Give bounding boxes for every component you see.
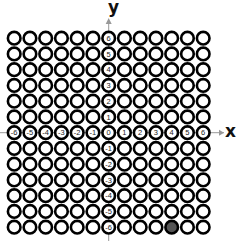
grid-point[interactable]: [8, 158, 21, 171]
grid-point[interactable]: [150, 221, 163, 234]
grid-point[interactable]: [8, 79, 21, 92]
grid-point[interactable]: [71, 205, 84, 218]
grid-point-filled[interactable]: [165, 221, 178, 234]
grid-point[interactable]: [8, 48, 21, 61]
grid-point[interactable]: [39, 63, 52, 76]
grid-point[interactable]: [71, 63, 84, 76]
grid-point[interactable]: [134, 111, 147, 124]
grid-point[interactable]: [39, 32, 52, 45]
grid-point[interactable]: [24, 32, 37, 45]
grid-point[interactable]: [24, 158, 37, 171]
grid-point[interactable]: [118, 63, 131, 76]
grid-point[interactable]: [118, 158, 131, 171]
grid-point[interactable]: [197, 158, 210, 171]
grid-point[interactable]: [55, 174, 68, 187]
grid-point[interactable]: [71, 221, 84, 234]
grid-point[interactable]: [165, 79, 178, 92]
grid-point[interactable]: [39, 95, 52, 108]
grid-point[interactable]: [8, 221, 21, 234]
grid-point[interactable]: [55, 48, 68, 61]
grid-point[interactable]: [24, 79, 37, 92]
grid-point[interactable]: [134, 142, 147, 155]
grid-point[interactable]: [87, 111, 100, 124]
grid-point[interactable]: [150, 48, 163, 61]
grid-point[interactable]: [87, 142, 100, 155]
grid-point[interactable]: [134, 158, 147, 171]
grid-point[interactable]: [197, 189, 210, 202]
grid-point[interactable]: [181, 32, 194, 45]
grid-point[interactable]: [118, 79, 131, 92]
grid-point[interactable]: [165, 158, 178, 171]
grid-point[interactable]: [55, 189, 68, 202]
grid-point[interactable]: [71, 48, 84, 61]
grid-point[interactable]: [181, 95, 194, 108]
grid-point[interactable]: [197, 174, 210, 187]
grid-point[interactable]: [8, 111, 21, 124]
grid-point[interactable]: [55, 111, 68, 124]
grid-point[interactable]: [118, 48, 131, 61]
grid-point[interactable]: [181, 221, 194, 234]
grid-point[interactable]: [165, 111, 178, 124]
grid-point[interactable]: [71, 111, 84, 124]
grid-point[interactable]: [165, 205, 178, 218]
grid-point[interactable]: [118, 142, 131, 155]
grid-point[interactable]: [71, 142, 84, 155]
grid-point[interactable]: [181, 79, 194, 92]
grid-point[interactable]: [197, 95, 210, 108]
grid-point[interactable]: [118, 174, 131, 187]
grid-point[interactable]: [87, 221, 100, 234]
grid-point[interactable]: [165, 48, 178, 61]
grid-point[interactable]: [71, 79, 84, 92]
grid-point[interactable]: [55, 205, 68, 218]
grid-point[interactable]: [39, 221, 52, 234]
grid-point[interactable]: [165, 142, 178, 155]
grid-point[interactable]: [87, 32, 100, 45]
grid-point[interactable]: [24, 95, 37, 108]
grid-point[interactable]: [197, 79, 210, 92]
grid-point[interactable]: [55, 158, 68, 171]
grid-point[interactable]: [150, 174, 163, 187]
grid-point[interactable]: [87, 95, 100, 108]
grid-point[interactable]: [181, 189, 194, 202]
grid-point[interactable]: [87, 79, 100, 92]
grid-point[interactable]: [55, 32, 68, 45]
grid-point[interactable]: [150, 142, 163, 155]
grid-point[interactable]: [197, 32, 210, 45]
grid-point[interactable]: [150, 63, 163, 76]
grid-point[interactable]: [134, 32, 147, 45]
grid-point[interactable]: [118, 205, 131, 218]
grid-point[interactable]: [118, 111, 131, 124]
grid-point[interactable]: [39, 174, 52, 187]
grid-point[interactable]: [134, 189, 147, 202]
grid-point[interactable]: [134, 63, 147, 76]
grid-point[interactable]: [55, 63, 68, 76]
grid-point[interactable]: [24, 221, 37, 234]
grid-point[interactable]: [197, 111, 210, 124]
grid-point[interactable]: [150, 111, 163, 124]
grid-point[interactable]: [55, 79, 68, 92]
grid-point[interactable]: [150, 189, 163, 202]
grid-point[interactable]: [87, 205, 100, 218]
grid-point[interactable]: [24, 174, 37, 187]
grid-point[interactable]: [165, 174, 178, 187]
grid-point[interactable]: [134, 79, 147, 92]
grid-point[interactable]: [134, 95, 147, 108]
grid-point[interactable]: [181, 63, 194, 76]
grid-point[interactable]: [150, 95, 163, 108]
grid-point[interactable]: [150, 158, 163, 171]
grid-point[interactable]: [71, 189, 84, 202]
grid-point[interactable]: [87, 189, 100, 202]
grid-point[interactable]: [181, 205, 194, 218]
grid-point[interactable]: [118, 221, 131, 234]
grid-point[interactable]: [118, 95, 131, 108]
grid-point[interactable]: [8, 32, 21, 45]
grid-point[interactable]: [134, 48, 147, 61]
grid-point[interactable]: [87, 63, 100, 76]
grid-point[interactable]: [197, 48, 210, 61]
grid-point[interactable]: [134, 174, 147, 187]
grid-point[interactable]: [8, 63, 21, 76]
grid-point[interactable]: [39, 111, 52, 124]
grid-point[interactable]: [55, 221, 68, 234]
grid-point[interactable]: [8, 95, 21, 108]
grid-point[interactable]: [87, 158, 100, 171]
